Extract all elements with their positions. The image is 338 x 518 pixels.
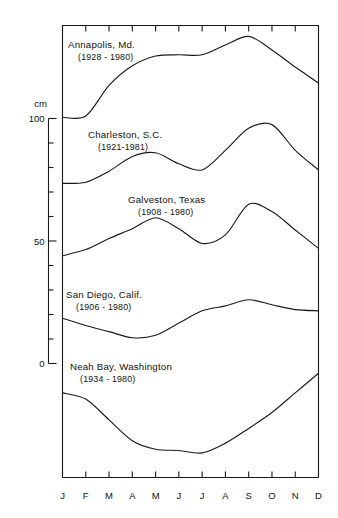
series-label-annapolis-md: Annapolis, Md. [68, 39, 135, 50]
series-years-charleston-s-c: (1921-1981) [98, 142, 148, 152]
x-tick-label-0: J [60, 490, 65, 501]
x-tick-label-11: D [315, 490, 322, 501]
x-tick-label-4: M [152, 490, 160, 501]
curve-neah-bay-washington [63, 373, 319, 453]
x-tick-label-5: J [176, 490, 181, 501]
x-tick-label-6: J [200, 490, 205, 501]
y-tick-label-0: 0 [39, 358, 44, 369]
x-tick-label-1: F [83, 490, 89, 501]
y-tick-label-100: 100 [29, 113, 45, 124]
x-tick-marks [63, 472, 319, 478]
x-tick-label-8: S [246, 490, 252, 501]
series-years-annapolis-md: (1928 - 1980) [78, 52, 133, 62]
x-tick-label-2: M [105, 490, 113, 501]
sea-level-seasonal-chart: JFMAMJJASOND 100500 cm Annapolis, Md.(19… [0, 0, 338, 518]
x-tick-label-9: O [268, 490, 275, 501]
y-axis-unit-label: cm [34, 98, 47, 109]
series-label-neah-bay-washington: Neah Bay, Washington [70, 361, 172, 372]
series-years-san-diego-calif: (1906 - 1980) [76, 302, 131, 312]
x-tick-labels: JFMAMJJASOND [60, 490, 322, 501]
x-tick-label-3: A [129, 490, 136, 501]
series-years-neah-bay-washington: (1934 - 1980) [80, 374, 135, 384]
data-curves [63, 36, 319, 453]
series-label-san-diego-calif: San Diego, Calif. [66, 289, 142, 300]
chart-canvas: JFMAMJJASOND 100500 cm Annapolis, Md.(19… [0, 0, 338, 518]
y-tick-label-50: 50 [34, 236, 45, 247]
y-tick-marks [49, 119, 57, 364]
series-label-galveston-texas: Galveston, Texas [128, 194, 205, 205]
top-tick-marks [63, 26, 319, 32]
y-tick-labels: 100500 [29, 113, 45, 369]
series-label-charleston-s-c: Charleston, S.C. [88, 129, 162, 140]
x-tick-label-7: A [222, 490, 229, 501]
series-years-galveston-texas: (1908 - 1980) [138, 207, 193, 217]
plot-frame [63, 26, 319, 478]
x-tick-label-10: N [292, 490, 299, 501]
series-annotations: Annapolis, Md.(1928 - 1980)Charleston, S… [66, 39, 205, 384]
